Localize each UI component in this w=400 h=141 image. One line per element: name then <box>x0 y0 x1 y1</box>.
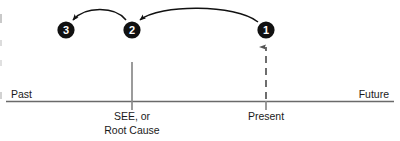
arrow-node1-to-node2 <box>140 8 258 22</box>
node-3-label: 3 <box>63 24 69 36</box>
axis-label-past: Past <box>11 88 32 100</box>
node-1-label: 1 <box>263 24 269 36</box>
tick-label-present: Present <box>248 110 284 122</box>
arrow-node2-to-node3 <box>73 10 126 21</box>
axis-label-future: Future <box>359 88 390 100</box>
node-2[interactable]: 2 <box>123 21 140 38</box>
node-1[interactable]: 1 <box>257 21 274 38</box>
node-3[interactable]: 3 <box>57 21 74 38</box>
timeline-diagram: 3 2 1 Past Future SEE, or Root Cause Pre… <box>0 0 400 141</box>
tick-label-see-root-cause-line1: SEE, or <box>114 110 151 122</box>
tick-label-see-root-cause-line2: Root Cause <box>104 124 160 136</box>
node-2-label: 2 <box>129 24 135 36</box>
